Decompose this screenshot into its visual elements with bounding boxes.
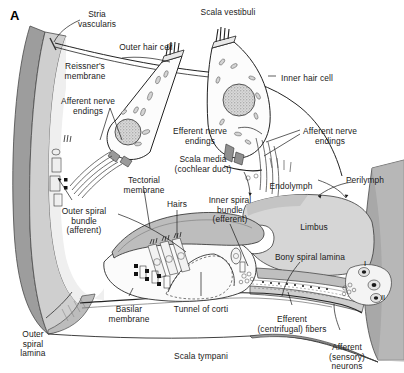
label-inner-hair-cell: Inner hair cell — [281, 74, 333, 84]
cochlea-organ-of-corti-figure: A Scala vestibuli Stria vascularis Outer… — [0, 0, 404, 373]
marker-neuron-type-i: I — [364, 259, 366, 268]
label-hairs: Hairs — [167, 200, 187, 210]
cochlea-cross-section-illustration — [0, 0, 404, 373]
label-scala-tympani: Scala tympani — [174, 352, 228, 362]
label-scala-media: Scala media (cochlear duct) — [175, 155, 232, 174]
label-afferent-nerve-endings-right: Afferent nerve endings — [303, 127, 357, 146]
panel-letter-a: A — [10, 8, 19, 23]
label-afferent-sensory-neurons: Afferent (sensory) neurons — [319, 343, 376, 372]
marker-neuron-type-ii: II — [381, 293, 385, 302]
label-inner-spiral-bundle: Inner spiral bundle (efferent) — [209, 196, 252, 225]
label-scala-vestibuli: Scala vestibuli — [200, 8, 255, 18]
label-basilar-membrane: Basilar membrane — [109, 305, 150, 324]
label-afferent-nerve-endings-left: Afferent nerve endings — [61, 97, 115, 116]
label-tunnel-of-corti: Tunnel of corti — [174, 305, 228, 315]
label-stria-vascularis: Stria vascularis — [78, 10, 116, 29]
label-endolymph: Endolymph — [270, 182, 313, 192]
label-tectorial-membrane: Tectorial membrane — [124, 176, 165, 195]
label-limbus: Limbus — [300, 223, 328, 233]
label-efferent-nerve-endings: Efferent nerve endings — [173, 127, 227, 146]
label-outer-spiral-bundle: Outer spiral bundle (afferent) — [62, 207, 107, 236]
label-perilymph: Perilymph — [346, 176, 384, 186]
label-efferent-centrifugal-fibers: Efferent (centrifugal) fibers — [257, 315, 326, 334]
label-outer-hair-cell: Outer hair cell — [119, 43, 173, 53]
label-bony-spiral-lamina: Bony spiral lamina — [275, 253, 345, 263]
label-reissners-membrane: Reissner's membrane — [65, 62, 106, 81]
label-outer-spiral-lamina: Outer spiral lamina — [20, 330, 45, 359]
